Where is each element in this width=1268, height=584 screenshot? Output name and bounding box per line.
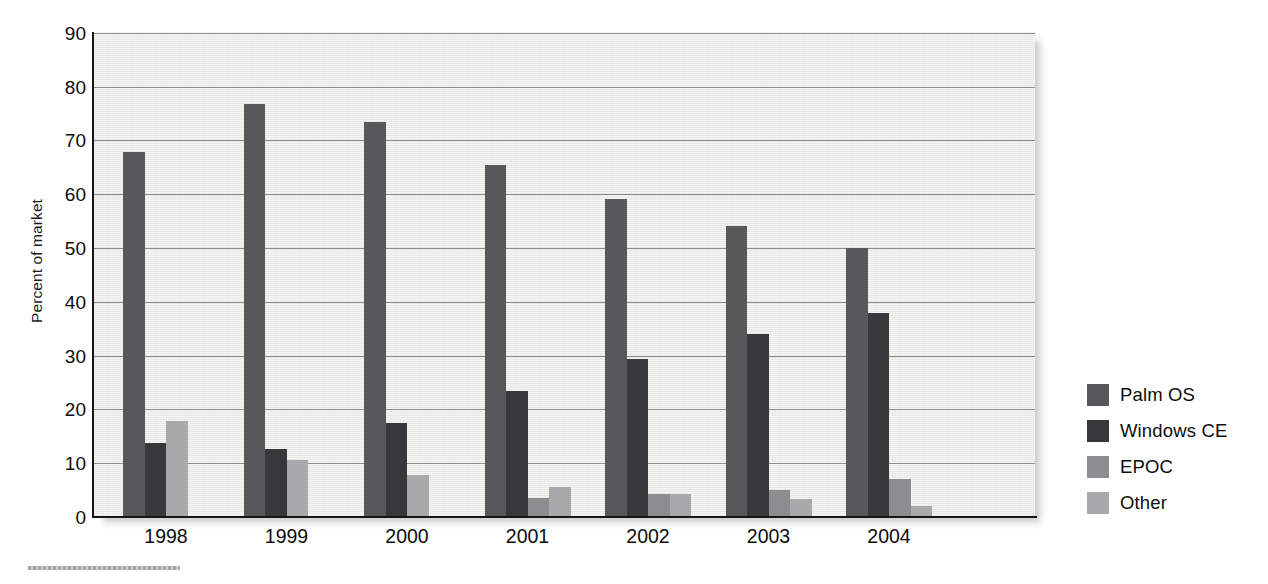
y-tick-label-70: 70 xyxy=(42,131,86,150)
footer-rule-artifact xyxy=(28,566,180,570)
x-axis-line xyxy=(92,516,1037,518)
legend-label: EPOC xyxy=(1120,456,1173,478)
bar-windows-ce-2001 xyxy=(506,391,528,517)
bar-chart-figure: Percent of market 9080706050403020100 19… xyxy=(0,0,1268,584)
bar-palm-os-2001 xyxy=(485,165,507,517)
legend-swatch-icon xyxy=(1087,492,1109,514)
y-axis-tick-labels: 9080706050403020100 xyxy=(42,0,86,584)
bar-windows-ce-1999 xyxy=(265,449,287,517)
x-axis-tick-labels: 1998199920002001200220032004 xyxy=(94,525,1035,559)
x-tick-label-2003: 2003 xyxy=(709,525,829,547)
y-axis-line xyxy=(92,32,94,518)
y-tick-label-40: 40 xyxy=(42,292,86,311)
bar-palm-os-2004 xyxy=(846,248,868,517)
x-tick-label-2002: 2002 xyxy=(588,525,708,547)
legend-label: Windows CE xyxy=(1120,420,1227,442)
bar-other-1999 xyxy=(287,460,309,517)
bar-windows-ce-2003 xyxy=(747,334,769,517)
bar-other-2000 xyxy=(407,475,429,517)
x-tick-label-1999: 1999 xyxy=(227,525,347,547)
y-tick-label-50: 50 xyxy=(42,239,86,258)
bar-windows-ce-2004 xyxy=(868,313,890,517)
bars-layer xyxy=(94,32,1035,517)
bar-other-2003 xyxy=(790,499,812,517)
y-tick-label-0: 0 xyxy=(42,508,86,527)
y-tick-label-80: 80 xyxy=(42,77,86,96)
bar-epoc-2004 xyxy=(889,479,911,517)
bar-other-2001 xyxy=(549,487,571,517)
y-tick-label-30: 30 xyxy=(42,346,86,365)
legend-swatch-icon xyxy=(1087,420,1109,442)
x-tick-label-2004: 2004 xyxy=(829,525,949,547)
bar-epoc-2003 xyxy=(769,490,791,517)
bar-palm-os-2003 xyxy=(726,226,748,517)
chart-legend: Palm OSWindows CEEPOCOther xyxy=(1087,377,1262,521)
bar-epoc-2002 xyxy=(648,494,670,517)
bar-epoc-2001 xyxy=(528,498,550,517)
x-tick-label-1998: 1998 xyxy=(106,525,226,547)
bar-palm-os-2002 xyxy=(605,199,627,517)
y-tick-label-10: 10 xyxy=(42,454,86,473)
y-tick-label-20: 20 xyxy=(42,400,86,419)
x-tick-label-2000: 2000 xyxy=(347,525,467,547)
bar-windows-ce-1998 xyxy=(145,443,167,517)
y-tick-label-60: 60 xyxy=(42,185,86,204)
bar-other-1998 xyxy=(166,421,188,517)
bar-palm-os-1999 xyxy=(244,104,266,517)
bar-windows-ce-2002 xyxy=(627,359,649,517)
x-tick-label-2001: 2001 xyxy=(468,525,588,547)
legend-item-other: Other xyxy=(1087,485,1262,521)
legend-item-windows-ce: Windows CE xyxy=(1087,413,1262,449)
legend-label: Palm OS xyxy=(1120,384,1195,406)
legend-swatch-icon xyxy=(1087,384,1109,406)
bar-palm-os-1998 xyxy=(123,152,145,517)
bar-palm-os-2000 xyxy=(364,122,386,517)
legend-swatch-icon xyxy=(1087,456,1109,478)
bar-windows-ce-2000 xyxy=(386,423,408,517)
bar-other-2002 xyxy=(670,494,692,517)
legend-item-epoc: EPOC xyxy=(1087,449,1262,485)
legend-item-palm-os: Palm OS xyxy=(1087,377,1262,413)
y-tick-label-90: 90 xyxy=(42,23,86,42)
legend-label: Other xyxy=(1120,492,1167,514)
plot-area xyxy=(94,32,1035,517)
